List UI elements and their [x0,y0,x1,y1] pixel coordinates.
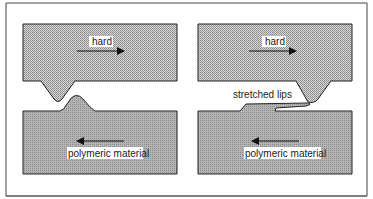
right-polymer-label: polymeric material [245,148,326,159]
left-polymer-label: polymeric material [68,148,149,159]
right-panel: stretched lips hard polymeric material [198,24,352,174]
right-hard-label: hard [265,36,285,47]
left-hard-label: hard [92,36,112,47]
tribology-diagram: hard polymeric material stretched lips h… [0,0,373,199]
stretched-lips-label: stretched lips [233,89,292,100]
right-polymer-body [198,103,352,174]
